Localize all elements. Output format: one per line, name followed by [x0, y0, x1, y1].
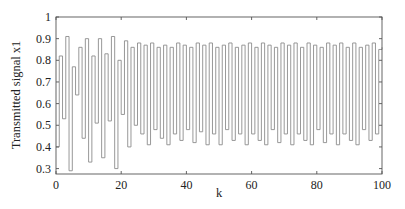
y-tick-label: 0.9: [36, 32, 51, 46]
y-axis-label: Transmitted signal x1: [9, 41, 23, 150]
x-tick-label: 40: [180, 178, 192, 192]
y-tick-label: 0.3: [36, 162, 51, 176]
y-tick-label: 0.8: [36, 53, 51, 67]
chart: 020406080100 0.30.40.50.60.70.80.91 k Tr…: [0, 0, 405, 209]
x-tick-label: 60: [246, 178, 258, 192]
x-tick-label: 80: [311, 178, 323, 192]
y-tick-label: 0.4: [36, 140, 51, 154]
y-tick-label: 0.5: [36, 118, 51, 132]
x-tick-label: 100: [373, 178, 391, 192]
x-axis-label: k: [216, 186, 223, 200]
x-tick-label: 0: [53, 178, 59, 192]
x-tick-label: 20: [115, 178, 127, 192]
y-tick-label: 1: [45, 10, 51, 24]
y-tick-label: 0.7: [36, 75, 51, 89]
y-tick-label: 0.6: [36, 97, 51, 111]
